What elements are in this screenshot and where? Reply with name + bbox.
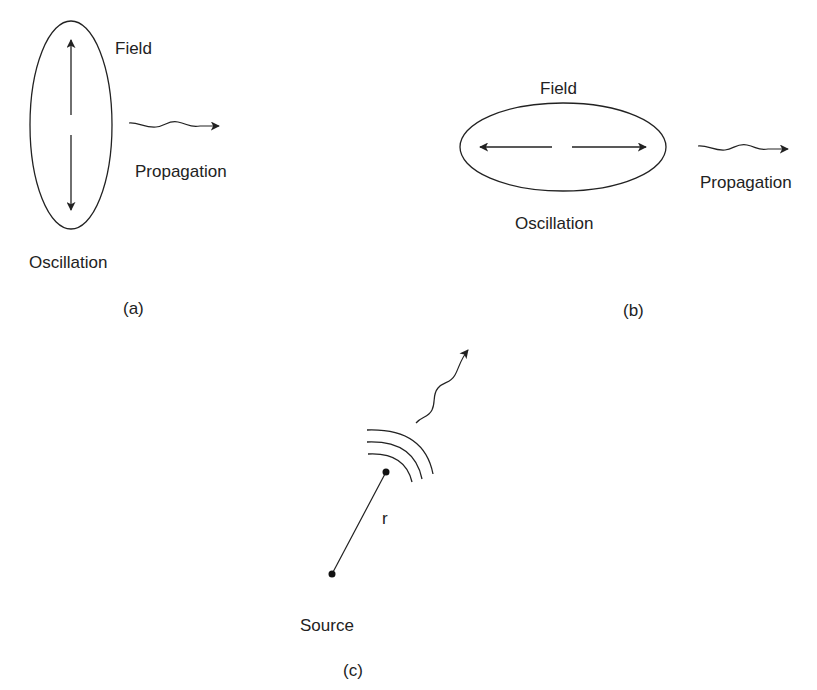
propagation-wave-arrow [129,122,219,128]
propagation-wave-arrow [698,145,788,151]
panel-b-field-label: Field [540,80,577,97]
panel-c-source-label: Source [300,617,354,634]
panel-c [329,350,469,578]
wavefront-arc-inner [368,454,412,482]
observation-point [383,469,390,476]
panel-a-propagation-label: Propagation [135,163,227,180]
wavefront-arc-middle [367,442,422,479]
panel-c-caption: (c) [343,662,363,679]
panel-a-field-label: Field [115,40,152,57]
wavefront-arc-outer [367,430,433,474]
panel-a-oscillation-label: Oscillation [29,254,107,271]
figure-canvas: Field Propagation Oscillation (a) Field … [0,0,817,690]
panel-b-oscillation-label: Oscillation [515,215,593,232]
diagram-graphics [0,0,817,690]
panel-a-caption: (a) [123,300,144,317]
panel-c-distance-label: r [382,510,388,527]
panel-b-propagation-label: Propagation [700,174,792,191]
propagation-wave-arrow [416,350,468,423]
distance-line [332,472,386,574]
source-point [329,571,336,578]
panel-b-caption: (b) [623,302,644,319]
